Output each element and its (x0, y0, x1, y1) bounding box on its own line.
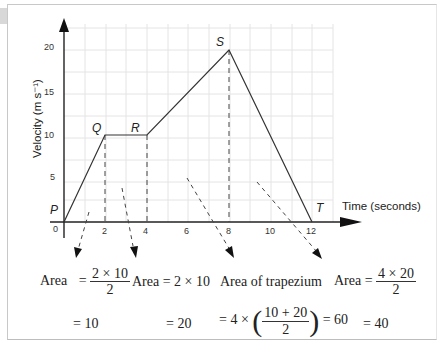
calc-triangle-1: Area = 2 × 102 (40, 266, 130, 298)
x-tick-labels: 2 4 6 8 10 12 (102, 226, 316, 236)
y-tick-20: 20 (44, 42, 54, 52)
point-label-p: P (50, 203, 58, 217)
y-tick-10: 10 (44, 130, 54, 140)
calc-triangle-2-result: = 40 (363, 316, 388, 332)
pointer-arrows (78, 178, 317, 252)
point-label-r: R (131, 121, 140, 135)
y-tick-15: 15 (44, 87, 54, 97)
y-tick-5: 5 (50, 172, 55, 182)
calc-trapezium-label: Area of trapezium (220, 274, 322, 290)
calc-triangle-2: Area = 4 × 202 (334, 266, 416, 298)
origin-label: 0 (53, 224, 58, 234)
calc-triangle-1-result: = 10 (73, 316, 98, 332)
x-tick-4: 4 (143, 226, 148, 236)
y-tick-labels: 20 15 10 5 (44, 42, 55, 182)
x-tick-10: 10 (265, 226, 275, 236)
grid (64, 24, 333, 222)
x-axis-label: Time (seconds) (342, 200, 421, 212)
arrowheads (74, 246, 322, 259)
point-label-t: T (316, 201, 325, 215)
x-tick-12: 12 (306, 226, 316, 236)
x-tick-6: 6 (184, 226, 189, 236)
point-label-s: S (216, 35, 224, 49)
calc-rectangle: Area = 2 × 10 (132, 274, 210, 290)
x-tick-2: 2 (102, 226, 107, 236)
point-label-q: Q (92, 121, 101, 135)
calc-rectangle-result: = 20 (166, 316, 191, 332)
x-tick-8: 8 (226, 226, 231, 236)
velocity-time-graph: 20 15 10 5 0 2 4 6 8 10 12 Velocity (m s… (0, 0, 441, 352)
y-axis-label: Velocity (m s⁻¹) (31, 79, 43, 158)
calc-trapezium: = 4 × (10 + 202) = 60 (219, 304, 348, 338)
